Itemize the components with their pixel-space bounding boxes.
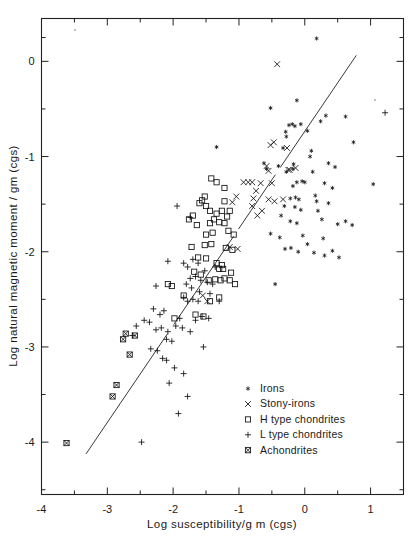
- y-tick-label: -1: [25, 151, 35, 163]
- x-axis-title: Log susceptibility/g m (cgs): [147, 518, 297, 530]
- legend-label: H type chondrites: [260, 413, 345, 425]
- y-tick-label: -2: [25, 246, 35, 258]
- y-tick-label: 0: [28, 55, 34, 67]
- legend-item-h-type-chondrites[interactable]: H type chondrites: [245, 413, 345, 425]
- figure-container: -4-3-2-101 0-1-2-3-4 Log susceptibility/…: [0, 0, 417, 547]
- x-tick-label: -1: [234, 503, 244, 515]
- scan-speck-2: [374, 99, 375, 100]
- scan-speck: [74, 29, 75, 30]
- x-tick-label: -3: [102, 503, 112, 515]
- y-tick-label: -3: [25, 341, 35, 353]
- legend-label: Achondrites: [260, 444, 318, 456]
- legend-item-l-type-chondrites[interactable]: L type chondrites: [245, 428, 343, 440]
- legend-label: Irons: [260, 382, 284, 394]
- x-tick-label: -4: [37, 503, 47, 515]
- x-tick-label: 1: [368, 503, 374, 515]
- legend-label: Stony-irons: [260, 397, 315, 409]
- x-tick-label: 0: [302, 503, 308, 515]
- legend-label: L type chondrites: [260, 428, 343, 440]
- scatter-plot: -4-3-2-101 0-1-2-3-4 Log susceptibility/…: [0, 0, 417, 547]
- y-tick-label: -4: [25, 436, 35, 448]
- y-axis-title: Log natural magnetic moment / gm (cgs): [7, 145, 19, 367]
- x-tick-label: -2: [168, 503, 178, 515]
